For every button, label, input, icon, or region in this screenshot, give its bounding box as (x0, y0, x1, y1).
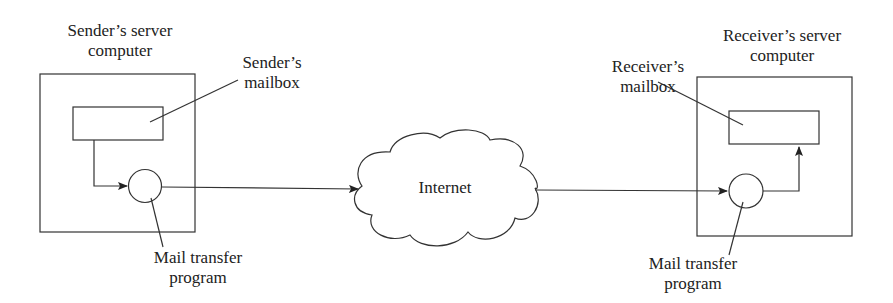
receiver-server-box (697, 77, 852, 236)
sender-mailbox-to-mta-arrow (94, 140, 127, 186)
receiver-mailbox-label-line1: Receiver’s (598, 57, 698, 77)
receiver-server-label: Receiver’s server computer (692, 26, 872, 66)
sender-mta-label-line2: program (133, 268, 263, 288)
sender-server-box (40, 74, 195, 232)
sender-mta-label-line1: Mail transfer (133, 248, 263, 268)
internet-label-text: Internet (400, 178, 490, 198)
receiver-mta-label-line2: program (628, 274, 758, 294)
receiver-server-label-line1: Receiver’s server (692, 26, 872, 46)
sender-server-label-line1: Sender’s server (40, 21, 200, 41)
receiver-mta-label: Mail transfer program (628, 254, 758, 294)
sender-to-internet-arrow (162, 187, 358, 189)
receiver-mailbox-label: Receiver’s mailbox (598, 57, 698, 97)
sender-server-label: Sender’s server computer (40, 21, 200, 61)
receiver-mta-to-mailbox-arrow (763, 147, 799, 191)
sender-mailbox-label: Sender’s mailbox (232, 53, 312, 93)
internet-to-receiver-arrow (535, 190, 727, 191)
sender-mta-label: Mail transfer program (133, 248, 263, 288)
internet-label: Internet (400, 178, 490, 198)
receiver-mta-circle (729, 174, 763, 208)
receiver-server-label-line2: computer (692, 46, 872, 66)
sender-mailbox-label-line2: mailbox (232, 73, 312, 93)
receiver-mta-leader (729, 202, 743, 255)
sender-mailbox-label-line1: Sender’s (232, 53, 312, 73)
sender-server-label-line2: computer (40, 41, 200, 61)
sender-mta-leader (151, 198, 163, 247)
sender-mta-circle (129, 170, 162, 203)
sender-mailbox-leader (150, 80, 238, 122)
receiver-mailbox-label-line2: mailbox (598, 77, 698, 97)
receiver-mailbox (729, 111, 819, 144)
receiver-mta-label-line1: Mail transfer (628, 254, 758, 274)
sender-mailbox (73, 107, 163, 140)
